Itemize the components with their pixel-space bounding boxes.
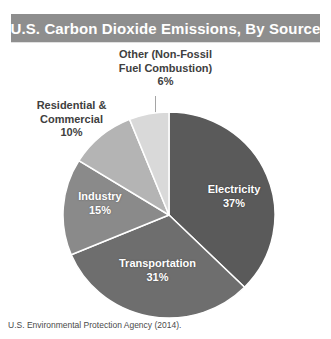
slice-label-industry-name: Industry xyxy=(62,190,138,204)
slice-label-industry-percent: 15% xyxy=(62,204,138,218)
callout-other-line2: Fuel Combustion) xyxy=(79,62,252,76)
slice-label-electricity-name: Electricity xyxy=(188,183,280,197)
page-title: U.S. Carbon Dioxide Emissions, By Source xyxy=(11,20,321,37)
slice-label-transportation-percent: 31% xyxy=(95,271,220,285)
chart-title-banner: U.S. Carbon Dioxide Emissions, By Source xyxy=(11,14,320,42)
slice-label-industry: Industry 15% xyxy=(62,190,138,217)
callout-label-other: Other (Non-Fossil Fuel Combustion) 6% xyxy=(79,48,252,89)
slice-label-electricity: Electricity 37% xyxy=(188,183,280,210)
callout-other-line1: Other (Non-Fossil xyxy=(79,48,252,62)
slice-label-transportation: Transportation 31% xyxy=(95,257,220,284)
slice-label-transportation-name: Transportation xyxy=(95,257,220,271)
slice-label-electricity-percent: 37% xyxy=(188,197,280,211)
source-note: U.S. Environmental Protection Agency (20… xyxy=(8,320,181,330)
callout-residential-line1: Residential & xyxy=(8,99,135,113)
chart-figure: U.S. Carbon Dioxide Emissions, By Source… xyxy=(0,0,331,339)
callout-other-percent: 6% xyxy=(79,75,252,89)
